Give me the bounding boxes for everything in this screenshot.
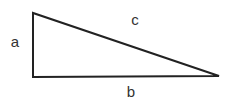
side-label-b: b [127,84,135,99]
triangle-canvas [0,0,233,103]
right-triangle-shape [33,13,219,77]
side-label-a: a [11,34,19,49]
triangle-diagram: a b c [0,0,233,103]
side-label-c: c [131,12,139,27]
